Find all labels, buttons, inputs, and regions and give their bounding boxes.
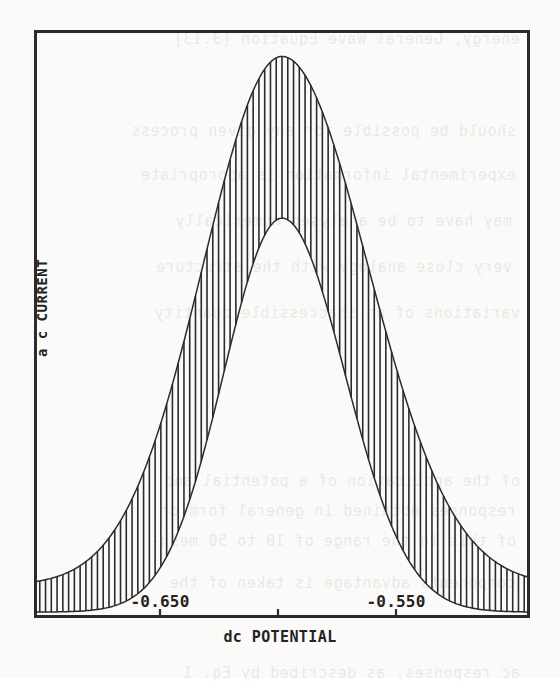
- ac-modulation-spikes: [34, 56, 530, 612]
- x-axis-label: dc POTENTIAL: [0, 628, 560, 646]
- x-axis-ticks: [160, 609, 396, 617]
- y-axis-label: a c CURRENT: [34, 228, 50, 388]
- x-tick-label-right: -0.550: [367, 592, 426, 611]
- x-tick-label-left: -0.650: [131, 592, 190, 611]
- plot-canvas: [34, 30, 530, 618]
